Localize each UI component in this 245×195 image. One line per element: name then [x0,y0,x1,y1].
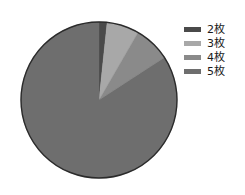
legend-item[interactable]: 5枚 [184,65,244,78]
legend-item[interactable]: 2枚 [184,23,244,36]
legend-swatch-icon [184,69,201,74]
legend-item-label: 4枚 [207,52,225,63]
legend-swatch-icon [184,27,201,32]
legend-item-label: 5枚 [207,66,225,77]
legend-item[interactable]: 3枚 [184,37,244,50]
legend-swatch-icon [184,41,201,46]
legend-item[interactable]: 4枚 [184,51,244,64]
legend-item-label: 3枚 [207,38,225,49]
pie-slice-group [21,22,177,178]
legend-swatch-icon [184,55,201,60]
legend-item-label: 2枚 [207,24,225,35]
chart-legend: 2枚 3枚 4枚 5枚 [184,23,244,79]
pie-chart-figure: 2枚 3枚 4枚 5枚 [0,0,245,195]
